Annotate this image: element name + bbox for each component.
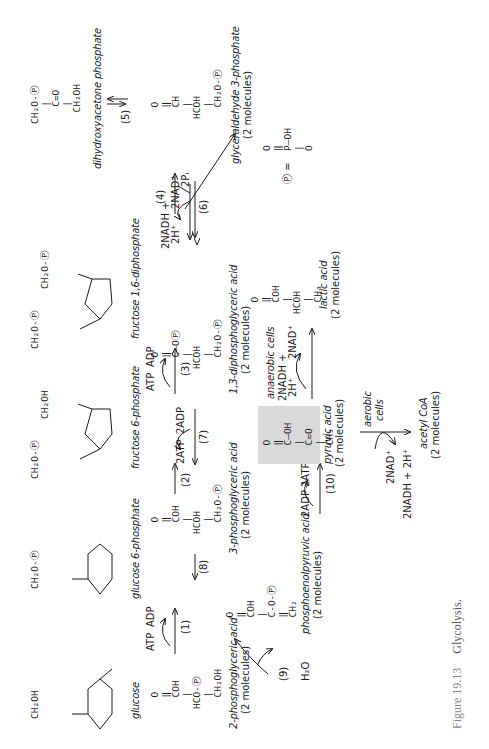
phosphate-structure: O ‖ P—OH | O [262,128,315,151]
dhap-name: dihydroxyacetone phosphate [92,28,103,169]
step5-label: (5) [120,110,131,124]
acetylcoa-name: acetyl CoA [418,397,429,449]
pep-name: phosphoenolpyruvic acid [300,514,311,634]
step10-out: 2ATP [300,462,311,487]
g3p-name: glyceraldehyde 3-phosphate [230,26,241,164]
f6p-name: fructose 6-phosphate [130,366,141,469]
figure-caption: Figure 19.13Glycolysis. [450,599,465,729]
aerobic-out: 2NADH + 2H⁺ [402,449,413,519]
step3-in: ATP [145,373,156,391]
pg2-structure: O ‖ COH | HCO-Ⓟ | CH₂OH [150,669,224,709]
step9-label: (9) [278,667,289,681]
lactate-structure: O ‖ COH | HCOH | CH₃ [250,285,324,314]
step1-in: ATP [145,633,156,651]
anaerobic-in2: 2H⁺ [287,378,298,397]
f16dp-name: fructose 1,6-diphosphate [130,218,141,339]
step8-label: (8) [198,560,209,574]
step7-in: 2ADP [175,407,186,434]
phosphate-symbol: Ⓟ = [282,162,293,184]
step10-label: (10) [325,473,336,494]
step6-label: (6) [198,200,209,214]
g6p-name: glucose 6-phosphate [130,498,141,599]
step1-label: (1) [180,620,191,634]
pg3-count: (2 molecules) [240,471,251,539]
bpg13-structure: O ‖ C—OⓅ | HCOH | CH₂O-Ⓟ [150,319,224,369]
lactate-name: lactic acid [318,261,329,309]
aerobic-in: 2NAD⁺ [385,450,396,484]
dhap-structure: CH₂O-Ⓟ | C=O | CH₂OH [30,84,83,124]
figure-number: Figure 19.13 [450,668,464,729]
pyruvate-count: (2 molecules) [334,399,345,467]
pep-structure: O ‖ COH | C-O-Ⓟ ‖ CH₂ [225,585,299,629]
g3p-structure: O ‖ CH | HCOH | CH₂O-Ⓟ [150,69,224,119]
pg3-name: 3-phosphoglyceric acid [228,443,239,554]
step6-out2: 2H⁺ [170,225,181,244]
glucose-ch2oh: CH₂OH [30,690,41,719]
step10-in: 2ADP [300,490,311,517]
step6-in2: 2Pᵢ [180,173,191,187]
anaerobic-label: anaerobic cells [265,327,276,399]
bpg13-count: (2 molecules) [240,306,251,374]
step9-water: H₂O [300,662,311,681]
pg2-count: (2 molecules) [240,646,251,714]
g6p-top: CH₂O-Ⓟ [30,550,41,589]
pg3-structure: O ‖ COH | HCOH | CH₂O-Ⓟ [150,484,224,534]
aerobic-label: aerobic [362,391,373,427]
step7-label: (7) [198,430,209,444]
f6p-top-right: CH₂OH [40,390,51,419]
acetylcoa-count: (2 molecules) [430,391,441,459]
step7-out: 2ATP [175,439,186,464]
f16dp-top-left: CH₂O-Ⓟ [30,310,41,349]
step1-out: ADP [145,606,156,627]
pg2-name: 2-phosphoglyceric acid [228,618,239,729]
figure-title: Glycolysis. [450,599,464,653]
f16dp-top-right: CH₂O-Ⓟ [40,250,51,289]
g3p-count: (2 molecules) [242,71,253,139]
bpg13-name: 1,3-diphosphoglyceric acid [228,265,239,394]
f6p-top-left: CH₂O-Ⓟ [30,440,41,479]
anaerobic-out: 2NAD⁺ [287,325,298,359]
glycolysis-figure-page: CH₂OH glucose ATP ADP (1) CH₂O-Ⓟ glucose… [0,0,489,749]
pep-count: (2 molecules) [312,551,323,619]
aerobic-label-2: cells [374,400,385,421]
pyruvate-name: pyruvic acid [322,406,333,464]
glucose-name: glucose [130,682,141,719]
lactate-count: (2 molecules) [330,251,341,319]
